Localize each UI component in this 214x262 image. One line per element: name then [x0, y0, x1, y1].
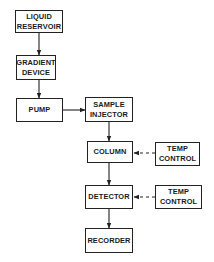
node-label-line: GRADIENT	[16, 58, 55, 68]
node-label-line: DETECTOR	[88, 192, 129, 202]
node-label-line: TEMP	[167, 144, 188, 154]
hplc-flow-diagram: LIQUID RESERVOIR GRADIENT DEVICE PUMP SA…	[0, 0, 214, 262]
connector-lines	[0, 0, 214, 262]
node-label-line: CONTROL	[160, 197, 197, 207]
node-detector: DETECTOR	[85, 185, 133, 209]
node-label-line: RECORDER	[87, 236, 130, 246]
node-label-line: DEVICE	[22, 68, 50, 78]
node-label-line: TEMP	[168, 187, 189, 197]
node-temp-control-detector: TEMP CONTROL	[155, 185, 202, 209]
node-sample-injector: SAMPLE INJECTOR	[85, 97, 133, 122]
node-gradient-device: GRADIENT DEVICE	[16, 55, 56, 80]
node-label-line: RESERVOIR	[17, 22, 61, 32]
node-label-line: SAMPLE	[93, 100, 124, 110]
node-column: COLUMN	[87, 141, 133, 163]
node-temp-control-column: TEMP CONTROL	[155, 142, 200, 166]
node-label-line: INJECTOR	[90, 110, 128, 120]
node-label-line: PUMP	[29, 105, 51, 115]
node-label-line: COLUMN	[93, 147, 126, 157]
node-label-line: LIQUID	[26, 12, 52, 22]
node-pump: PUMP	[16, 98, 63, 122]
node-recorder: RECORDER	[85, 228, 133, 253]
node-liquid-reservoir: LIQUID RESERVOIR	[15, 10, 63, 33]
node-label-line: CONTROL	[159, 154, 196, 164]
